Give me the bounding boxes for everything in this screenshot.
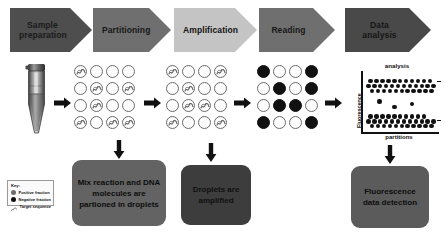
droplet-circle — [305, 116, 318, 129]
chart-data-point — [390, 84, 394, 88]
chart-data-point — [380, 79, 384, 83]
chart-data-point — [425, 84, 429, 88]
chart-data-point — [372, 84, 376, 88]
droplet-cell — [256, 115, 272, 132]
droplet-cell — [288, 98, 304, 115]
droplet-cell — [288, 81, 304, 98]
droplet-circle — [106, 99, 119, 112]
chart-data-point — [414, 119, 418, 123]
droplet-cell — [304, 64, 320, 81]
callout-amplification-note: Droplets are amplified — [181, 165, 251, 225]
droplet-cell — [73, 115, 89, 132]
droplet-cell — [89, 64, 105, 81]
droplet-cell — [165, 98, 181, 115]
droplet-cell — [165, 115, 181, 132]
chart-data-point — [425, 119, 429, 123]
chart-data-point — [392, 114, 396, 118]
chart-data-point — [386, 79, 390, 83]
droplet-cell — [105, 115, 121, 132]
chart-data-point — [370, 89, 374, 93]
arrow-reading-to-analysis — [325, 95, 342, 113]
droplet-circle — [74, 99, 87, 112]
droplet-circle — [257, 65, 270, 78]
chart-data-point — [431, 119, 435, 123]
chart-data-point — [417, 124, 421, 128]
droplet-circle — [273, 99, 286, 112]
chart-data-point — [411, 89, 415, 93]
legend-item-target-sequence: Target sequence — [11, 203, 50, 210]
droplet-circle — [289, 116, 302, 129]
chart-data-point — [428, 79, 432, 83]
chart-data-point — [423, 89, 427, 93]
droplet-circle — [122, 99, 135, 112]
droplet-cell — [256, 64, 272, 81]
stage-banner-sample-preparation: Samplepreparation — [10, 8, 92, 52]
droplet-cell — [121, 115, 137, 132]
arrow-sample-to-partition — [54, 95, 71, 113]
arrow-amplify-down — [205, 143, 217, 166]
callout-text: Droplets are amplified — [186, 184, 246, 206]
chart-data-point — [416, 114, 420, 118]
chart-plot-area — [364, 72, 438, 131]
droplet-cell — [288, 64, 304, 81]
chart-data-point — [416, 79, 420, 83]
droplet-cell — [89, 81, 105, 98]
droplet-circle — [214, 99, 227, 112]
chart-data-point — [404, 79, 408, 83]
chart-data-point — [392, 105, 396, 109]
chart-data-point — [374, 79, 378, 83]
stage-banner-partitioning: Partitioning — [93, 8, 171, 52]
chart-data-point — [400, 89, 404, 93]
chart-data-point — [378, 119, 382, 123]
arrow-analysis-down — [384, 145, 396, 168]
droplet-cell — [181, 81, 197, 98]
chart-data-point — [408, 119, 412, 123]
droplet-circle — [305, 65, 318, 78]
chart-data-point — [417, 89, 421, 93]
legend-item-label: Target sequence — [20, 204, 52, 209]
reading-droplet-grid — [256, 64, 320, 132]
droplet-circle — [198, 82, 211, 95]
chart-data-point — [388, 89, 392, 93]
droplet-circle — [257, 82, 270, 95]
droplet-cell — [213, 81, 229, 98]
droplet-cell — [105, 81, 121, 98]
chart-title: analysis — [348, 62, 445, 69]
droplet-cell — [121, 81, 137, 98]
chart-data-point — [368, 114, 372, 118]
target-sequence-squiggle-icon — [11, 198, 17, 216]
callout-text: Mix reaction and DNA molecules are parti… — [77, 177, 161, 210]
droplet-cell — [304, 115, 320, 132]
chart-data-point — [390, 119, 394, 123]
chart-data-point — [384, 84, 388, 88]
callout-partitioning-note: Mix reaction and DNA molecules are parti… — [72, 160, 166, 226]
chart-data-point — [384, 119, 388, 123]
droplet-circle — [166, 82, 179, 95]
droplet-circle — [106, 65, 119, 78]
fluorescence-scatter-chart: analysis Fluorescence partitions — [344, 62, 442, 144]
droplet-circle — [182, 116, 195, 129]
stage-banner-label: Partitioning — [102, 25, 145, 36]
droplet-cell — [256, 81, 272, 98]
droplet-circle — [273, 116, 286, 129]
stage-banner-reading: Reading — [259, 8, 335, 52]
partitioning-droplet-grid — [73, 64, 137, 132]
chart-data-point — [382, 124, 386, 128]
chart-data-point — [386, 114, 390, 118]
chart-data-point — [405, 124, 409, 128]
amplification-droplet-grid — [165, 64, 229, 132]
stage-banner-amplification: Amplification — [174, 8, 257, 52]
chart-data-point — [429, 124, 433, 128]
droplet-circle — [289, 99, 302, 112]
droplet-cell — [272, 115, 288, 132]
droplet-cell — [181, 98, 197, 115]
chart-data-point — [396, 119, 400, 123]
chart-data-point — [366, 84, 370, 88]
droplet-circle — [273, 82, 286, 95]
droplet-cell — [165, 64, 181, 81]
droplet-cell — [304, 81, 320, 98]
chart-data-point — [392, 79, 396, 83]
chart-data-point — [376, 124, 380, 128]
chart-data-point — [366, 119, 370, 123]
chart-data-point — [396, 84, 400, 88]
